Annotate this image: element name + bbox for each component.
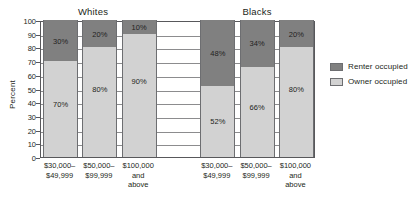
legend-swatch-owner-icon	[330, 78, 343, 86]
legend-swatch-renter-icon	[330, 63, 343, 71]
y-axis-tick-label: 10	[12, 140, 36, 149]
bar-value-label-owner: 80%	[82, 85, 117, 94]
bar-value-label-renter: 34%	[240, 39, 275, 48]
bar-segment-owner[interactable]	[122, 34, 157, 157]
bar-value-label-owner: 90%	[122, 76, 157, 85]
stacked-bar[interactable]: 66%34%	[240, 20, 275, 157]
y-axis-tick-label: 20	[12, 126, 36, 135]
stacked-bar-chart: Whites Blacks Percent 100908070605040302…	[0, 0, 418, 200]
stacked-bar[interactable]: 80%20%	[279, 20, 314, 157]
y-axis-tick-label: 80	[12, 44, 36, 53]
x-axis-tick-label-line: above	[260, 180, 330, 190]
bar-value-label-owner: 70%	[43, 100, 78, 109]
bar-segment-owner[interactable]	[43, 61, 78, 157]
y-axis-tick-label: 60	[12, 71, 36, 80]
y-axis-tick-label: 50	[12, 85, 36, 94]
bar-segment-owner[interactable]	[240, 67, 275, 157]
stacked-bar[interactable]: 80%20%	[82, 20, 117, 157]
x-axis-tick-label-line: $100,000	[103, 161, 173, 171]
y-axis-tick-label: 100	[12, 17, 36, 26]
bar-value-label-renter: 20%	[279, 29, 314, 38]
x-axis-tick-label: $100,000andabove	[103, 161, 173, 190]
y-axis-tick-mark	[36, 158, 40, 159]
x-axis-tick-label: $100,000andabove	[260, 161, 330, 190]
bar-value-label-owner: 52%	[200, 117, 235, 126]
y-axis-tick-label: 90	[12, 30, 36, 39]
bar-segment-owner[interactable]	[279, 47, 314, 157]
y-axis-tick-label: 70	[12, 58, 36, 67]
bar-value-label-renter: 20%	[82, 29, 117, 38]
y-axis-tick-label: 40	[12, 99, 36, 108]
x-axis-tick-label-line: $100,000	[260, 161, 330, 171]
legend: Renter occupied Owner occupied	[330, 62, 408, 92]
bar-value-label-renter: 10%	[122, 22, 157, 31]
legend-item-renter[interactable]: Renter occupied	[330, 62, 408, 71]
stacked-bar[interactable]: 90%10%	[122, 20, 157, 157]
plot-area: 70%30%80%20%90%10%52%48%66%34%80%20%	[40, 21, 315, 158]
legend-label-owner: Owner occupied	[348, 77, 407, 86]
bar-value-label-renter: 30%	[43, 36, 78, 45]
legend-label-renter: Renter occupied	[348, 62, 408, 71]
x-axis-tick-label-line: and	[103, 171, 173, 181]
bar-value-label-renter: 48%	[200, 48, 235, 57]
bar-segment-owner[interactable]	[82, 47, 117, 157]
x-axis-tick-label-line: and	[260, 171, 330, 181]
legend-item-owner[interactable]: Owner occupied	[330, 77, 408, 86]
x-axis-tick-label-line: above	[103, 180, 173, 190]
stacked-bar[interactable]: 70%30%	[43, 20, 78, 157]
y-axis-tick-label: 30	[12, 112, 36, 121]
bar-value-label-owner: 80%	[279, 85, 314, 94]
stacked-bar[interactable]: 52%48%	[200, 20, 235, 157]
bar-value-label-owner: 66%	[240, 103, 275, 112]
